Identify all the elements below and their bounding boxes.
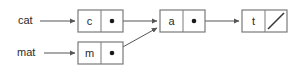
node-m-pointer-dot	[110, 51, 115, 56]
node-a-value: a	[168, 15, 175, 27]
node-c-pointer-dot	[110, 19, 115, 24]
node-c-value: c	[87, 15, 93, 27]
diagram-canvas: cat mat c	[0, 0, 302, 69]
node-t: t	[242, 10, 287, 32]
node-m-value: m	[85, 47, 94, 59]
node-a: a	[160, 10, 205, 32]
diagram-vector-layer: c a t m	[0, 0, 302, 69]
node-a-pointer-dot	[192, 19, 197, 24]
node-m: m	[78, 42, 123, 64]
node-t-value: t	[252, 15, 255, 27]
node-c: c	[78, 10, 123, 32]
